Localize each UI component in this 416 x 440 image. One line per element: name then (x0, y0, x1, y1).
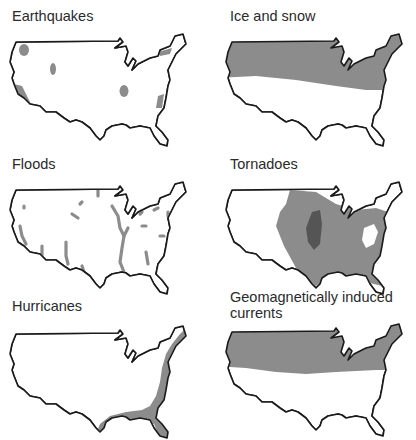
us-map-hurricanes (0, 320, 200, 440)
us-map-geomagnetically-induced-currents (216, 318, 416, 438)
panel-tornadoes: Tornadoes (210, 150, 416, 290)
panel-geomagnetically-induced-currents: Geomagnetically induced currents (210, 285, 416, 430)
panel-ice-and-snow: Ice and snow (210, 0, 416, 150)
panel-title: Floods (12, 156, 56, 172)
panel-title: Tornadoes (230, 156, 298, 172)
panel-hurricanes: Hurricanes (0, 290, 206, 430)
us-map-tornadoes (216, 176, 416, 296)
panel-floods: Floods (0, 150, 206, 290)
panel-title-line1: Geomagnetically induced (230, 289, 393, 305)
panel-title: Geomagnetically induced currents (230, 289, 393, 321)
panel-title: Earthquakes (12, 8, 93, 24)
panel-title: Hurricanes (12, 298, 82, 314)
us-map-floods (0, 176, 200, 296)
panel-title: Ice and snow (230, 8, 315, 24)
panel-earthquakes: Earthquakes (0, 0, 206, 150)
us-map-earthquakes (0, 28, 200, 148)
us-map-ice-and-snow (216, 28, 416, 148)
